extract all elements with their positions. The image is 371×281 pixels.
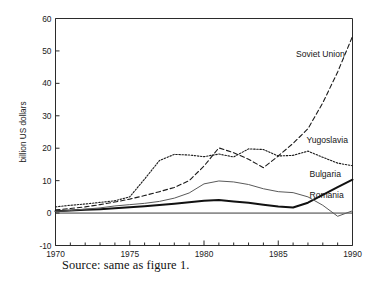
y-tick-label: 10 [42, 176, 52, 186]
figure-caption: Source: same as figure 1. [62, 258, 189, 273]
x-tick-label: 1985 [269, 249, 288, 259]
series-layer [56, 36, 353, 216]
x-tick-label: 1970 [46, 249, 65, 259]
y-tick-label: 30 [42, 111, 52, 121]
x-tick-label: 1980 [195, 249, 214, 259]
y-tick-label: 40 [42, 78, 52, 88]
figure-container: -10010203040506019701975198019851990bill… [0, 0, 371, 281]
series-label-soviet-union: Soviet Union [296, 49, 345, 59]
y-tick-label: 60 [42, 14, 52, 24]
x-tick-label: 1990 [343, 249, 362, 259]
y-axis-title: billion US dollars [19, 102, 28, 163]
series-label-bulgaria: Bulgaria [309, 169, 341, 179]
line-chart: -10010203040506019701975198019851990bill… [0, 0, 371, 281]
y-tick-label: 0 [47, 208, 52, 218]
series-labels-layer: Soviet UnionYugoslaviaBulgariaRomania [296, 49, 348, 200]
y-tick-label: 50 [42, 46, 52, 56]
series-label-romania: Romania [309, 190, 344, 200]
x-tick-label: 1975 [120, 249, 139, 259]
series-line-romania [56, 181, 353, 216]
series-label-yugoslavia: Yugoslavia [306, 135, 348, 145]
y-tick-label: 20 [42, 143, 52, 153]
series-line-yugoslavia [56, 149, 353, 207]
